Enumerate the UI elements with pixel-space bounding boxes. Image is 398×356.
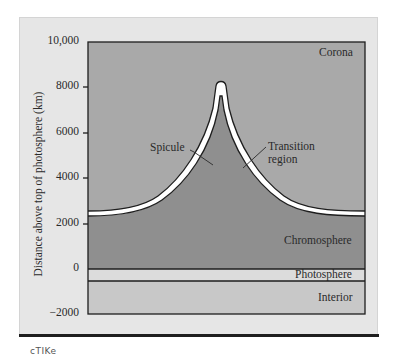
y-axis-title: Distance above top of photosphere (km) [32,92,44,277]
y-tick-8000: 8000 [19,79,79,91]
label-interior: Interior [318,291,352,303]
y-tick-0: 0 [19,261,79,273]
label-transition-line1: Transition [268,140,315,152]
panel-bottom-rule [19,334,379,337]
footer-text-fragment: cTIKe [30,346,57,356]
label-spicule: Spicule [150,141,185,153]
label-transition-line2: region [268,153,297,165]
label-photosphere: Photosphere [295,268,352,280]
y-axis-ticks [83,87,88,224]
y-tick-2000: 2000 [19,216,79,228]
y-tick-6000: 6000 [19,125,79,137]
y-tick-4000: 4000 [19,170,79,182]
y-tick-minus-2000: −2000 [19,306,79,318]
label-chromosphere: Chromosphere [284,234,352,246]
label-corona: Corona [319,46,353,58]
y-tick-10000: 10,000 [19,34,79,46]
